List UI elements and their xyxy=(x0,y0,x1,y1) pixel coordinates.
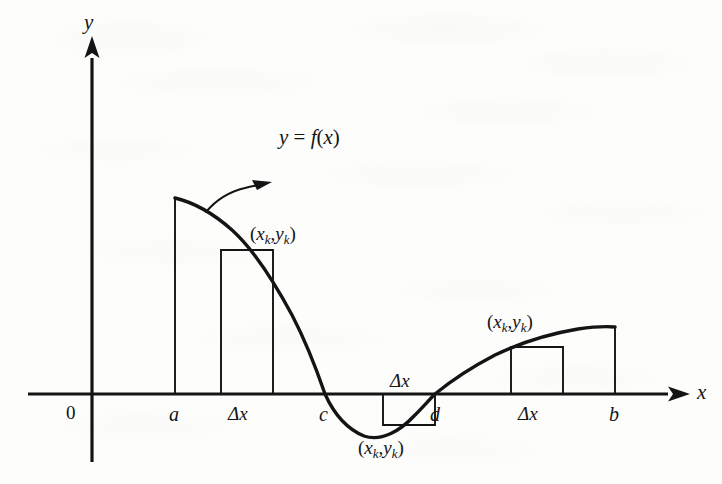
delta-x-label-middle: Δx xyxy=(390,371,410,390)
point-label-right-x: x xyxy=(493,311,501,332)
right-rectangle xyxy=(511,347,563,394)
point-label-left: (xk,yk) xyxy=(250,224,296,247)
rectangles-group xyxy=(221,250,563,425)
tick-label-a: a xyxy=(169,404,179,424)
curve-equation-y: y xyxy=(279,125,288,149)
tick-label-b: b xyxy=(609,404,619,424)
delta-x-label-left: Δx xyxy=(228,404,248,423)
curve-equation-label: y = f(x) xyxy=(279,127,340,148)
axes-group xyxy=(28,36,690,462)
boundary-verticals-group xyxy=(175,198,615,394)
point-label-middle-close: ) xyxy=(397,437,403,458)
point-label-middle-x: x xyxy=(364,437,372,458)
curve-label-arrow xyxy=(206,180,272,212)
tick-label-d: d xyxy=(430,404,440,424)
point-label-middle-y: y xyxy=(383,437,391,458)
curve-equation-close-paren: ) xyxy=(333,125,340,149)
riemann-sum-figure: y x 0 y = f(x) a c d b Δx Δx Δx (xk,yk) … xyxy=(0,0,722,484)
point-label-right-close: ) xyxy=(526,311,532,332)
function-curve xyxy=(175,198,615,438)
curve-equation-x: x xyxy=(324,125,333,149)
y-axis-label: y xyxy=(84,12,93,33)
curve-equation-equals: = xyxy=(288,125,310,149)
x-axis-label: x xyxy=(697,382,706,403)
point-label-middle: (xk,yk) xyxy=(358,438,404,461)
curve-label-arrow-shaft xyxy=(206,184,264,212)
origin-label: 0 xyxy=(66,403,76,422)
point-label-left-x: x xyxy=(256,223,264,244)
x-axis-arrowhead xyxy=(668,387,690,402)
point-label-left-y: y xyxy=(275,223,283,244)
point-label-right: (xk,yk) xyxy=(487,312,533,335)
tick-label-c: c xyxy=(319,404,328,424)
curve-label-arrowhead xyxy=(252,180,272,190)
point-label-left-close: ) xyxy=(289,223,295,244)
delta-x-label-right: Δx xyxy=(518,404,538,423)
curve-equation-open-paren: ( xyxy=(317,125,324,149)
point-label-right-y: y xyxy=(512,311,520,332)
y-axis-arrowhead xyxy=(85,36,100,58)
